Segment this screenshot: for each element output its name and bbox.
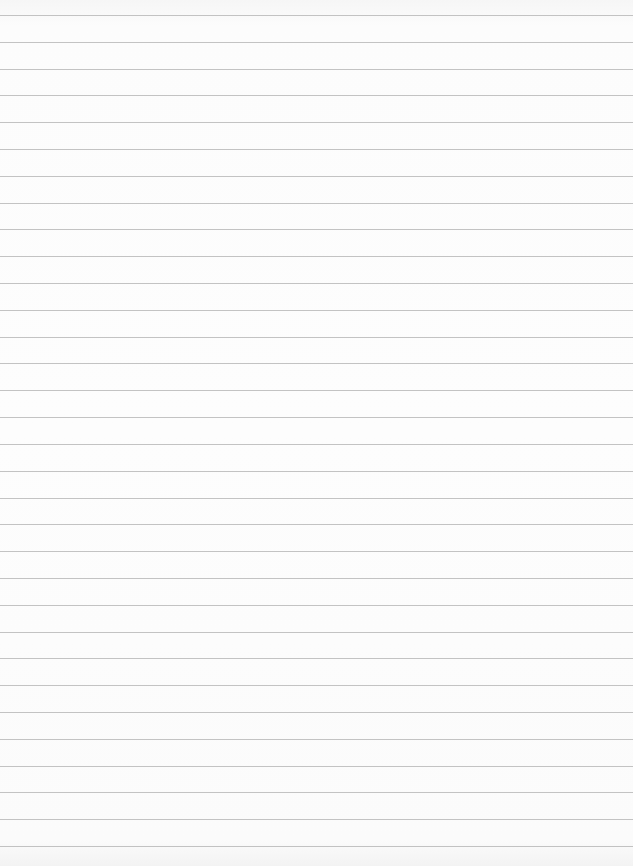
ruled-line [0,363,633,364]
ruled-line [0,256,633,257]
ruled-line [0,551,633,552]
ruled-line [0,229,633,230]
ruled-line [0,42,633,43]
ruled-line [0,471,633,472]
ruled-line [0,712,633,713]
ruled-line [0,390,633,391]
ruled-line [0,69,633,70]
ruled-line [0,739,633,740]
ruled-line [0,283,633,284]
ruled-line [0,632,633,633]
ruled-line [0,15,633,16]
ruled-line [0,605,633,606]
ruled-line [0,444,633,445]
ruled-line [0,792,633,793]
ruled-line [0,685,633,686]
ruled-line [0,846,633,847]
ruled-paper-sheet [0,0,633,866]
ruled-line [0,819,633,820]
ruled-line [0,658,633,659]
ruled-line [0,203,633,204]
ruled-line [0,149,633,150]
ruled-line [0,498,633,499]
ruled-line [0,578,633,579]
ruled-line [0,176,633,177]
ruled-line [0,310,633,311]
ruled-line [0,337,633,338]
ruled-line [0,766,633,767]
ruled-line [0,122,633,123]
ruled-line [0,524,633,525]
ruled-line [0,95,633,96]
ruled-line [0,417,633,418]
